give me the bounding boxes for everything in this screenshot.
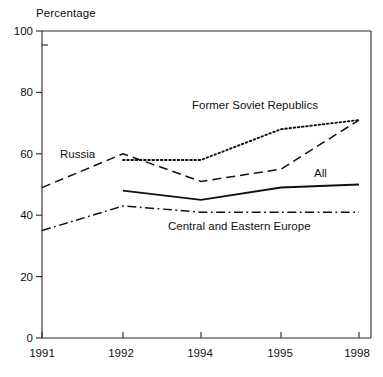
series-label-russia: Russia — [60, 148, 95, 160]
series-label-former-soviet-republics: Former Soviet Republics — [192, 99, 318, 111]
plot-area — [0, 0, 383, 377]
series-line-former-soviet-republics — [123, 120, 359, 160]
series-layer — [42, 120, 359, 231]
percentage-line-chart: Percentage 0 20 40 60 80 100 1991 1992 1… — [0, 0, 383, 377]
series-line-all — [123, 185, 359, 200]
series-label-central-and-eastern-europe: Central and Eastern Europe — [168, 220, 311, 232]
series-label-all: All — [314, 167, 327, 179]
